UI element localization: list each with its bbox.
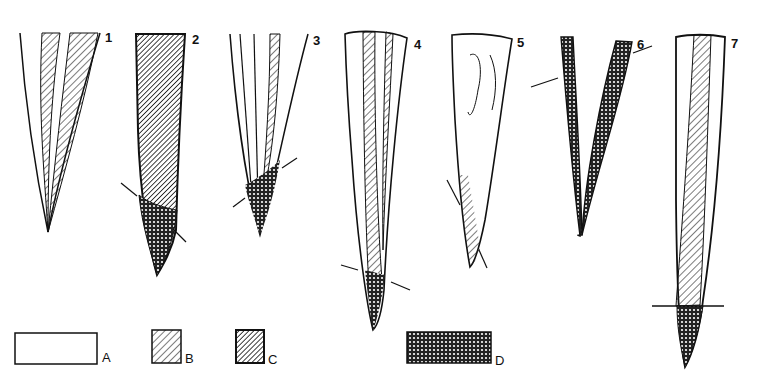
item-label-5: 5 — [517, 35, 524, 50]
point-7 — [652, 35, 725, 367]
legend-label-d: D — [495, 353, 504, 368]
figure-drawing — [0, 0, 762, 391]
point-1 — [20, 33, 100, 232]
point-6 — [531, 37, 652, 236]
item-label-2: 2 — [192, 32, 199, 47]
legend-label-a: A — [102, 350, 111, 365]
point-5 — [447, 34, 512, 268]
legend-swatch-b — [152, 330, 181, 363]
legend-swatch-c — [236, 330, 264, 363]
legend-label-b: B — [185, 351, 194, 366]
item-label-4: 4 — [414, 37, 421, 52]
item-label-1: 1 — [105, 30, 112, 45]
legend-label-c: C — [268, 352, 277, 367]
item-label-3: 3 — [313, 33, 320, 48]
item-label-6: 6 — [637, 37, 644, 52]
point-4 — [341, 31, 410, 330]
point-3 — [230, 34, 308, 235]
legend-swatch-a — [15, 333, 97, 364]
point-2 — [121, 34, 186, 275]
legend-swatches — [15, 330, 491, 364]
legend-swatch-d — [407, 332, 491, 363]
item-label-7: 7 — [731, 36, 738, 51]
